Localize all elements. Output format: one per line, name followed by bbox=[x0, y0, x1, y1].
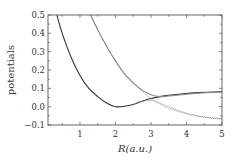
x-tick-label: 3 bbox=[148, 129, 153, 139]
ticks-layer bbox=[48, 15, 222, 125]
x-axis-title: R(a.u.) bbox=[117, 143, 152, 154]
x-tick-label: 4 bbox=[184, 129, 189, 139]
series-line-4 bbox=[133, 100, 222, 118]
curves-layer bbox=[57, 15, 222, 119]
series-line-3 bbox=[91, 15, 222, 119]
plot-frame bbox=[48, 15, 222, 125]
y-tick-label: −0.1 bbox=[24, 120, 45, 130]
y-tick-label: 0.3 bbox=[31, 47, 45, 57]
y-tick-label: 0.2 bbox=[31, 65, 45, 75]
y-tick-label: 0.5 bbox=[31, 10, 45, 20]
x-tick-label: 1 bbox=[77, 129, 82, 139]
y-tick-label: 0.1 bbox=[31, 83, 45, 93]
potential-energy-chart: 12345−0.10.00.10.20.30.40.5 R(a.u.) pote… bbox=[0, 0, 236, 165]
y-tick-label: 0.0 bbox=[31, 102, 45, 112]
x-tick-label: 5 bbox=[219, 129, 224, 139]
x-tick-label: 2 bbox=[113, 129, 118, 139]
series-line-2 bbox=[91, 15, 222, 97]
y-axis-title: potentials bbox=[5, 45, 16, 95]
y-tick-label: 0.4 bbox=[31, 28, 45, 38]
